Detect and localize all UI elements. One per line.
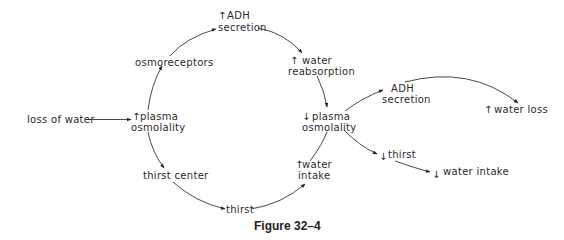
up-arrow-icon: ↑ [484,104,493,115]
node-thirst-decrease: ↓ thirst [379,149,416,162]
up-arrow-icon: ↑ [290,55,299,66]
node-label: plasma [140,111,178,122]
node-label: secretion [382,94,431,105]
node-loss-of-water: loss of water [27,114,95,125]
node-label: ADH [227,10,250,21]
node-label: plasma [312,111,350,122]
node-label: ADH [391,83,414,94]
node-plasma-osmolality-increase: ↑ plasma osmolality [131,111,186,133]
down-arrow-icon: ↓ [379,151,388,162]
node-water-intake-decrease: ↓ water intake [432,166,509,180]
diagram-figure: loss of water ↑ plasma osmolality osmore… [0,0,564,240]
flow-diagram: loss of water ↑ plasma osmolality osmore… [0,0,564,240]
up-arrow-icon: ↑ [218,10,227,21]
node-thirst: thirst [226,204,254,215]
down-arrow-icon: ↓ [302,111,311,122]
node-water-loss-increase: ↑ water loss [484,104,548,115]
node-label: water [302,55,333,66]
down-arrow-icon: ↓ [432,169,441,180]
node-water-reabsorption-increase: ↑ water reabsorption [288,55,355,77]
node-label: intake [298,170,331,181]
node-label: water loss [494,104,548,115]
node-label: osmolality [131,122,186,133]
node-thirst-center: thirst center [143,170,209,181]
node-label: thirst [388,149,416,160]
node-adh-secretion-increase: ↑ ADH secretion [218,10,267,33]
node-plasma-osmolality-decrease: ↓ plasma osmolality [302,111,357,133]
node-adh-secretion-decrease: ADH secretion [382,83,431,105]
node-osmoreceptors: osmoreceptors [135,57,214,68]
node-label: water intake [443,166,509,177]
node-water-intake-increase: ↑ water intake [295,159,333,181]
node-label: water [302,159,333,170]
node-label: reabsorption [288,66,355,77]
figure-caption: Figure 32–4 [254,219,321,233]
node-label: secretion [218,22,267,33]
node-label: osmolality [302,122,357,133]
